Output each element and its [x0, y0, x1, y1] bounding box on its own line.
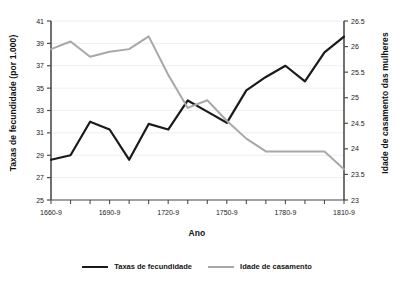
legend-label-casamento: Idade de casamento: [240, 262, 312, 271]
legend-item-casamento: Idade de casamento: [208, 262, 312, 271]
y-axis-left-tick-label: 27: [36, 174, 44, 181]
y-axis-left-tick-label: 41: [36, 18, 44, 25]
y-axis-right-tick-label: 25.5: [351, 69, 365, 76]
y-axis-left-tick-label: 25: [36, 197, 44, 204]
x-axis-tick-label: 1780-9: [275, 209, 297, 216]
y-axis-right-ticks: 2323.52424.52525.52626.5: [344, 18, 365, 204]
series-line-casamento: [51, 36, 344, 169]
y-axis-left-tick-label: 37: [36, 62, 44, 69]
y-axis-left-tick-label: 33: [36, 107, 44, 114]
legend-swatch-fecundidade-icon: [82, 266, 108, 268]
series-lines: [51, 36, 344, 169]
fertility-marriage-age-chart: Taxas de fecundidade (por 1.000) Idade d…: [0, 0, 394, 288]
x-axis-tick-label: 1660-9: [40, 209, 62, 216]
y-axis-left-tick-label: 35: [36, 85, 44, 92]
y-axis-right-tick-label: 23: [351, 197, 359, 204]
chart-legend: Taxas de fecundidade Idade de casamento: [0, 262, 394, 271]
x-axis-tick-label: 1690-9: [99, 209, 121, 216]
y-axis-right-tick-label: 25: [351, 94, 359, 101]
x-axis-tick-label: 1750-9: [216, 209, 238, 216]
legend-swatch-casamento-icon: [208, 266, 234, 268]
y-axis-left-tick-label: 31: [36, 129, 44, 136]
x-axis-tick-label: 1810-9: [333, 209, 355, 216]
x-axis-ticks: 1660-91690-91720-91750-91780-91810-9: [40, 200, 355, 216]
y-axis-left-tick-label: 29: [36, 152, 44, 159]
y-axis-right-tick-label: 26.5: [351, 18, 365, 25]
gridlines: [51, 21, 344, 200]
y-axis-right-tick-label: 24: [351, 145, 359, 152]
plot-area: 252729313335373941 2323.52424.52525.5262…: [0, 0, 394, 230]
y-axis-left-ticks: 252729313335373941: [36, 18, 51, 204]
y-axis-right-tick-label: 26: [351, 43, 359, 50]
y-axis-right-tick-label: 24.5: [351, 120, 365, 127]
x-axis-tick-label: 1720-9: [157, 209, 179, 216]
legend-label-fecundidade: Taxas de fecundidade: [114, 262, 192, 271]
legend-item-fecundidade: Taxas de fecundidade: [82, 262, 192, 271]
y-axis-right-tick-label: 23.5: [351, 171, 365, 178]
y-axis-left-tick-label: 39: [36, 40, 44, 47]
